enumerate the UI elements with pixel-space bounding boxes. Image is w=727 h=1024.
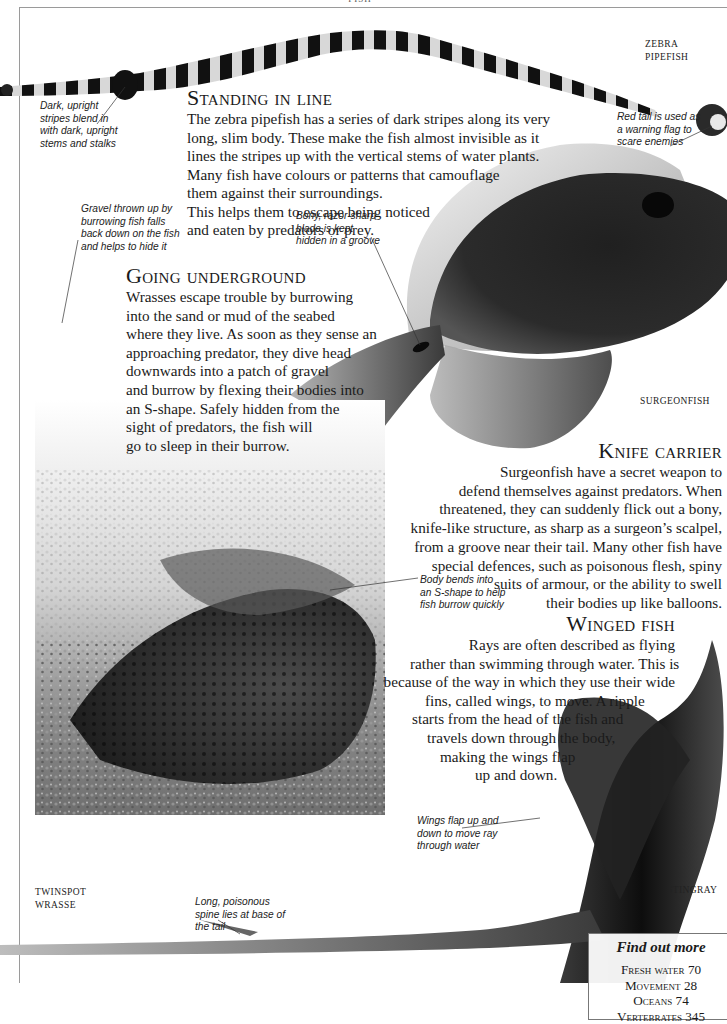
label-surgeonfish: SURGEONFISH [640, 395, 710, 408]
page-frame-top [19, 7, 727, 8]
heading-knife-carrier: Knife carrier [411, 439, 722, 463]
callout-body-bends: Body bends into an S-shape to help fish … [420, 574, 506, 612]
section-going-underground: Going underground Wrasses escape trouble… [126, 264, 377, 455]
label-twinspot-wrasse: TWINSPOT WRASSE [35, 886, 86, 912]
heading-standing-in-line: Standing in line [187, 86, 550, 110]
find-out-more-link-vertebrates[interactable]: Vertebrates 345 [589, 1009, 727, 1024]
body-going-underground: Wrasses escape trouble by burrowing into… [126, 288, 377, 455]
heading-going-underground: Going underground [126, 264, 377, 288]
callout-blade: Bony, razor-sharp blade is kept hidden i… [296, 210, 380, 248]
page-frame-left [19, 7, 20, 983]
heading-winged-fish: Winged fish [400, 612, 675, 636]
callout-red-tail: Red tail is used as a warning flag to sc… [617, 111, 700, 149]
find-out-more-title: Find out more [589, 939, 727, 956]
label-stingray: STINGRAY [667, 884, 717, 897]
section-winged-fish: Winged fish [400, 612, 675, 636]
find-out-more-link-fresh-water[interactable]: Fresh water 70 [589, 962, 727, 978]
find-out-more-box: Find out more Fresh water 70 Movement 28… [588, 933, 727, 1020]
find-out-more-link-movement[interactable]: Movement 28 [589, 978, 727, 994]
callout-spine: Long, poisonous spine lies at base of th… [195, 896, 285, 934]
callout-gravel: Gravel thrown up by burrowing fish falls… [81, 203, 180, 253]
label-zebra-pipefish: ZEBRA PIPEFISH [645, 38, 688, 64]
find-out-more-link-oceans[interactable]: Oceans 74 [589, 993, 727, 1009]
callout-wings-flap: Wings flap up and down to move ray throu… [417, 815, 498, 853]
twinspot-wrasse-photo [35, 400, 385, 815]
running-head: FISH [300, 0, 420, 4]
body-winged-fish: Rays are often described as flying rathe… [410, 636, 675, 785]
callout-dark-stripes: Dark, upright stripes blend in with dark… [40, 100, 118, 150]
